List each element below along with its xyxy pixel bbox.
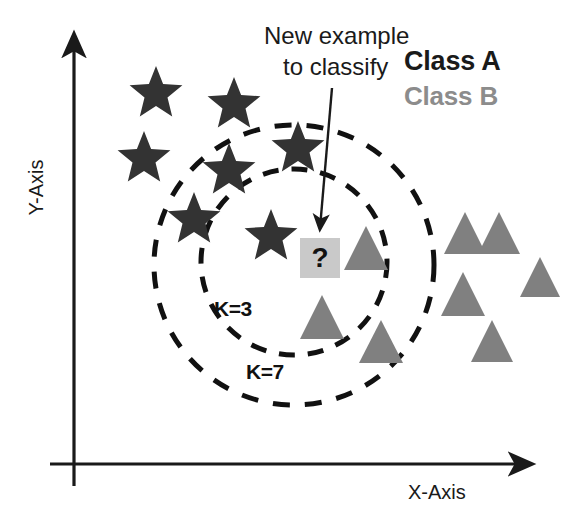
callout-label-line1: New example <box>264 22 409 50</box>
triangle-marker <box>444 212 486 254</box>
k7-label: K=7 <box>246 360 284 384</box>
star-marker <box>130 66 183 116</box>
y-axis-label: Y-Axis <box>25 143 48 233</box>
triangle-marker <box>520 257 560 297</box>
legend-label-class-a: Class A <box>404 46 501 77</box>
legend-label-class-b: Class B <box>404 81 498 112</box>
star-marker <box>168 192 221 242</box>
class-a-points <box>118 66 325 259</box>
k3-label: K=3 <box>214 297 252 321</box>
query-point-marker: ? <box>300 238 340 278</box>
callout-arrow <box>320 88 332 228</box>
triangle-marker <box>478 212 520 254</box>
triangle-marker <box>359 320 403 363</box>
star-marker <box>208 77 261 127</box>
star-marker <box>245 209 298 259</box>
star-marker <box>203 143 256 193</box>
callout-label-line2: to classify <box>283 53 388 81</box>
x-axis-label: X-Axis <box>408 481 466 504</box>
triangle-marker <box>441 272 485 316</box>
star-marker <box>118 131 171 181</box>
knn-diagram: ? New example to classify Class A Class … <box>0 0 574 531</box>
triangle-marker <box>471 320 513 362</box>
triangle-marker <box>300 295 344 339</box>
